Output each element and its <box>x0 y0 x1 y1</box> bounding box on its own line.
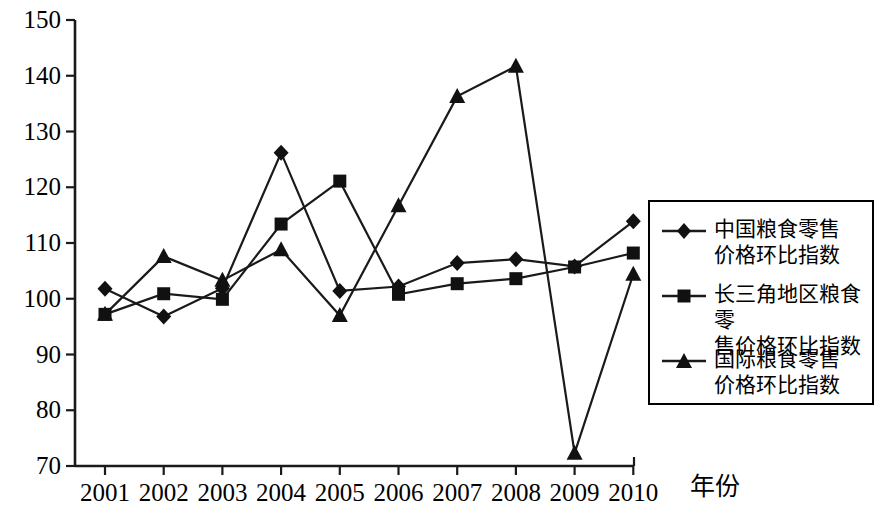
legend: 中国粮食零售 价格环比指数 长三角地区粮食零 售价格环比指数 国际粮食零售 价格… <box>648 200 874 405</box>
legend-entry-china: 中国粮食零售 价格环比指数 <box>660 216 840 268</box>
y-tick-label: 90 <box>36 342 61 367</box>
legend-entry-international: 国际粮食零售 价格环比指数 <box>660 346 840 398</box>
y-tick-label: 150 <box>24 7 62 32</box>
y-tick-label: 140 <box>24 63 62 88</box>
legend-label-china: 中国粮食零售 价格环比指数 <box>714 216 840 268</box>
diamond-marker <box>660 218 708 244</box>
y-tick-label: 100 <box>24 286 62 311</box>
square-marker <box>660 283 708 309</box>
legend-label-international: 国际粮食零售 价格环比指数 <box>714 346 840 398</box>
line-chart: 708090100110120130140150 200120022003200… <box>0 0 875 508</box>
y-tick-label: 80 <box>36 397 61 422</box>
y-tick-label: 120 <box>24 174 62 199</box>
y-tick-label: 70 <box>36 453 61 478</box>
y-tick-label: 110 <box>24 230 61 255</box>
y-tick-label: 130 <box>24 119 62 144</box>
triangle-marker <box>660 348 708 374</box>
x-axis-title: 年份 <box>690 474 740 499</box>
x-tick-label: 2010 <box>598 480 668 505</box>
